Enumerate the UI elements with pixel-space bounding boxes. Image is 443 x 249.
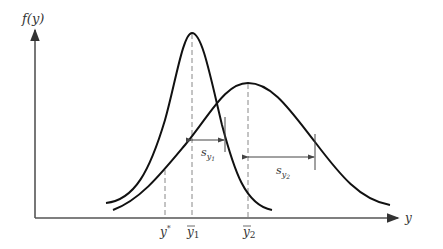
svg-text:y1: y1 — [186, 225, 200, 240]
distribution-1-curve — [106, 33, 272, 210]
s-y2-label: sy2 — [276, 164, 290, 180]
diagram-canvas: f(y) y sy1 sy2 y* y1 y2 — [0, 0, 443, 249]
y-bar-2-label: y2 — [242, 225, 256, 240]
x-axis-label: y — [404, 211, 412, 225]
s-y1-label: sy1 — [201, 146, 215, 162]
y-axis-label: f(y) — [21, 11, 44, 26]
svg-text:y2: y2 — [242, 225, 256, 240]
distribution-2-curve — [113, 83, 390, 210]
y-star-label: y* — [159, 224, 171, 239]
y-bar-1-label: y1 — [186, 225, 200, 240]
